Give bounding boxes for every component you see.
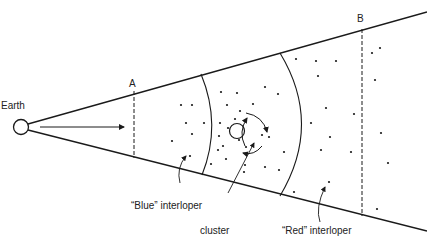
earth-circle [14,120,29,135]
earth-label: Earth [1,101,25,111]
orbit-arrow-top-right [246,113,267,132]
cone-lower-edge [28,130,427,231]
orbit-arrow-left [236,140,247,157]
blue-interloper-label: “Blue” interloper [131,201,202,211]
inner-shell-arc [201,74,212,175]
line-of-sight-diagram [0,0,427,246]
cluster-label: cluster [200,226,229,236]
galaxy-dots [171,47,389,210]
cluster-pointer [228,143,254,193]
boundary-b-label: B [357,14,364,24]
boundary-a-label: A [129,79,136,89]
orbit-arrow-left-side [244,149,251,150]
outer-shell-arc [280,53,302,196]
red-interloper-label: “Red” interloper [282,226,351,236]
cone-upper-edge [28,12,427,124]
